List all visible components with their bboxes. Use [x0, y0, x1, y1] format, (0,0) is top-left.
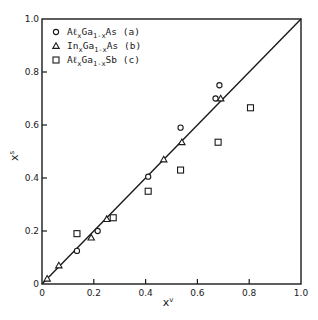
triangle-marker — [179, 139, 185, 145]
square-marker — [145, 188, 151, 194]
x-tick-label: 0.8 — [242, 288, 257, 298]
x-tick-label: 0 — [39, 288, 45, 298]
square-marker — [215, 139, 221, 145]
circle-marker — [178, 125, 183, 130]
y-tick-label: 1.0 — [25, 14, 40, 24]
legend-item: AℓxGa1-xSb (c) — [53, 54, 140, 68]
scatter-chart: 00.20.40.60.81.00.20.40.60.81.00 AℓxGa1-… — [0, 0, 318, 320]
data-points — [44, 83, 254, 281]
y-tick-label: 0.4 — [25, 173, 40, 183]
triangle-marker — [104, 216, 110, 222]
circle-marker — [95, 228, 100, 233]
square-marker — [178, 167, 184, 173]
x-tick-label: 0.4 — [138, 288, 153, 298]
circle-marker — [217, 83, 222, 88]
circle-marker — [146, 174, 151, 179]
legend: AℓxGa1-xAs (a)InxGa1-xAs (b)AℓxGa1-xSb (… — [53, 26, 141, 68]
legend-item: AℓxGa1-xAs (a) — [53, 26, 140, 40]
legend-label: AℓxGa1-xSb (c) — [67, 54, 140, 68]
y-tick-label: 0.2 — [25, 226, 39, 236]
square-marker — [110, 215, 116, 221]
x-axis-label: xv — [163, 296, 174, 309]
origin-y-label: 0 — [33, 279, 39, 289]
series-square — [74, 105, 254, 237]
y-tick-label: 0.6 — [25, 120, 40, 130]
circle-legend-icon — [53, 29, 58, 34]
y-axis-label: xs — [8, 151, 21, 162]
x-tick-label: 1.0 — [294, 288, 309, 298]
square-marker — [74, 231, 80, 237]
square-marker — [247, 105, 253, 111]
legend-label: InxGa1-xAs (b) — [67, 40, 141, 54]
legend-item: InxGa1-xAs (b) — [53, 40, 141, 54]
triangle-legend-icon — [53, 43, 59, 49]
legend-label: AℓxGa1-xAs (a) — [67, 26, 140, 40]
x-tick-label: 0.6 — [190, 288, 205, 298]
y-tick-label: 0.8 — [25, 67, 40, 77]
series-triangle — [44, 95, 224, 281]
square-legend-icon — [53, 57, 59, 63]
x-tick-label: 0.2 — [87, 288, 101, 298]
circle-marker — [74, 248, 79, 253]
